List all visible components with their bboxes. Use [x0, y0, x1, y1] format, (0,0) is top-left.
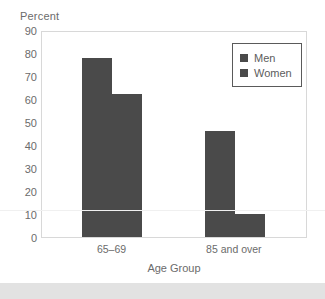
- legend-label: Men: [254, 52, 275, 64]
- x-tick-label: 65–69: [97, 243, 126, 255]
- y-tick-label: 50: [3, 117, 37, 129]
- background-rule: [0, 210, 325, 211]
- bar-men-1: [205, 131, 235, 237]
- legend-item-men: Men: [240, 50, 292, 65]
- y-axis-tick-labels: 9080706050403020100: [0, 31, 37, 238]
- bar-chart-figure: Percent 9080706050403020100 65–6985 and …: [0, 0, 325, 299]
- chart-legend: MenWomen: [232, 43, 302, 87]
- y-tick-label: 30: [3, 163, 37, 175]
- y-tick-label: 0: [3, 232, 37, 244]
- y-tick-label: 20: [3, 186, 37, 198]
- x-tick-label: 85 and over: [206, 243, 261, 255]
- x-axis-title: Age Group: [41, 262, 307, 274]
- bar-women-1: [235, 214, 265, 237]
- y-tick-label: 70: [3, 71, 37, 83]
- y-tick-label: 40: [3, 140, 37, 152]
- y-tick-label: 80: [3, 48, 37, 60]
- bar-women-0: [112, 94, 142, 237]
- y-axis-title: Percent: [20, 10, 59, 22]
- y-tick-label: 90: [3, 25, 37, 37]
- bottom-strip: [0, 283, 325, 299]
- legend-swatch-icon: [240, 54, 248, 62]
- legend-label: Women: [254, 67, 292, 79]
- y-tick-label: 60: [3, 94, 37, 106]
- legend-item-women: Women: [240, 65, 292, 80]
- legend-swatch-icon: [240, 69, 248, 77]
